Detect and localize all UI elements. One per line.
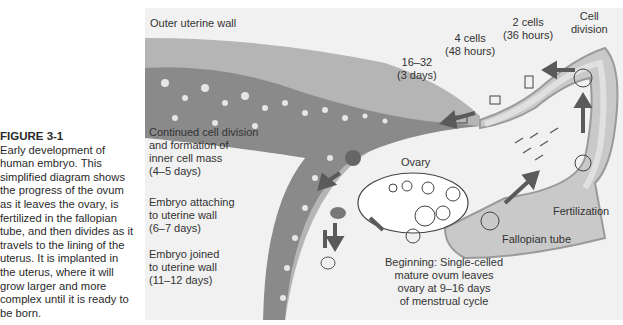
label-embryo-joined: Embryo joined to uterine wall (11–12 day… <box>149 248 219 287</box>
label-outer-uterine-wall: Outer uterine wall <box>150 17 236 30</box>
label-fertilization: Fertilization <box>553 205 609 218</box>
caption-line: Early development of <box>0 144 140 158</box>
caption-line: simplified diagram shows <box>0 171 140 185</box>
label-inner-cell-mass: Continued cell division and formation of… <box>149 126 258 178</box>
caption-line: travels to the lining of the <box>0 239 140 253</box>
caption-line: fertilized in the fallopian <box>0 212 140 226</box>
figure-title: FIGURE 3-1 <box>0 130 140 144</box>
label-four-cells: 4 cells (48 hours) <box>445 32 495 58</box>
label-cell-division: Cell division <box>571 10 608 36</box>
caption-line: be born. <box>0 307 140 321</box>
label-16-32-cells: 16–32 (3 days) <box>397 56 437 82</box>
label-two-cells: 2 cells (36 hours) <box>503 16 553 42</box>
label-embryo-attaching: Embryo attaching to uterine wall (6–7 da… <box>149 196 235 235</box>
label-beginning: Beginning: Single-celled mature ovum lea… <box>385 256 503 308</box>
caption-line: as it leaves the ovary, is <box>0 198 140 212</box>
figure-caption: FIGURE 3-1 Early development of human em… <box>0 130 140 320</box>
caption-line: complex until it is ready to <box>0 293 140 307</box>
caption-line: uterus. It is implanted in <box>0 252 140 266</box>
inner-cell-mass <box>345 150 361 166</box>
caption-line: grow larger and more <box>0 280 140 294</box>
caption-line: the progress of the ovum <box>0 184 140 198</box>
four-cell-stage <box>490 96 500 104</box>
two-cell-stage <box>525 76 533 88</box>
label-ovary: Ovary <box>401 156 430 169</box>
caption-line: tube, and then divides as it <box>0 225 140 239</box>
embryo-diagram: Outer uterine wall Cell division 2 cells… <box>145 8 623 320</box>
label-fallopian-tube: Fallopian tube <box>502 233 571 246</box>
caption-line: the uterus, where it will <box>0 266 140 280</box>
caption-line: human embryo. This <box>0 157 140 171</box>
